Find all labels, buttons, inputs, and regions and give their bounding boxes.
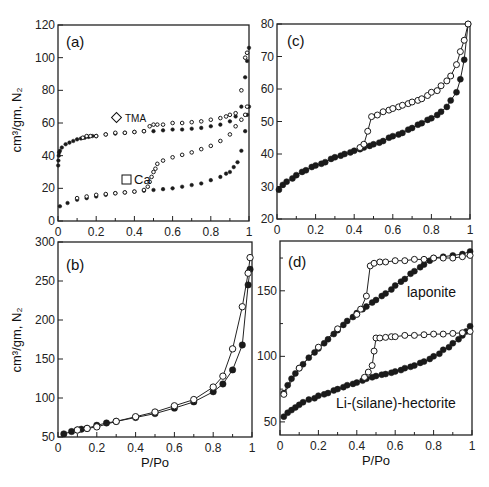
y-tick-label: 50 [42, 430, 56, 444]
y-axis-label-top: cm³/gm, N₂ [9, 88, 24, 153]
x-tick-label: 0 [55, 441, 62, 455]
series-tma-adsorption [56, 46, 250, 167]
series-desorption [74, 254, 253, 433]
series-adsorption [276, 21, 471, 193]
y-tick-label: 100 [257, 349, 277, 363]
y-tick-label: 40 [42, 149, 56, 163]
x-tick-label: 0.8 [205, 441, 222, 455]
y-tick-label: 50 [261, 115, 275, 129]
x-tick-label: 0.4 [346, 223, 363, 237]
y-tick-label: 150 [257, 284, 277, 298]
y-tick-label: 100 [35, 391, 55, 405]
y-tick-label: 250 [35, 274, 55, 288]
x-tick-label: 1 [469, 439, 476, 453]
ca-label: Ca [134, 172, 151, 187]
x-tick-label: 0.6 [387, 439, 404, 453]
x-axis-label-d: P/Po [362, 453, 390, 468]
y-tick-label: 120 [35, 18, 55, 32]
square-marker-icon [122, 175, 131, 184]
x-tick-label: 0 [277, 439, 284, 453]
x-tick-label: 0 [55, 225, 62, 239]
series-li-silane-hectorite-desorption [361, 328, 473, 380]
series-ca-adsorption [58, 105, 251, 208]
y-tick-label: 60 [261, 82, 275, 96]
y-tick-label: 200 [35, 313, 55, 327]
hectorite-label: Li-(silane)-hectorite [336, 395, 456, 411]
series-desorption [357, 21, 471, 151]
y-tick-label: 30 [261, 180, 275, 194]
x-tick-label: 0.4 [127, 441, 144, 455]
x-tick-label: 0.6 [164, 225, 181, 239]
y-tick-label: 20 [261, 212, 275, 226]
x-tick-label: 0.4 [348, 439, 365, 453]
x-tick-label: 0.8 [202, 225, 219, 239]
laponite-label: laponite [407, 284, 456, 300]
series-tma-desorption [81, 51, 249, 140]
plot-frame [58, 242, 252, 437]
y-tick-label: 0 [48, 214, 55, 228]
x-tick-label: 1 [249, 441, 256, 455]
x-tick-label: 0.6 [166, 441, 183, 455]
panel-c-label: (c) [287, 32, 305, 49]
panel-a-label: (a) [66, 33, 84, 50]
figure: 00.20.40.60.81020406080100120 00.20.40.6… [0, 0, 489, 487]
x-tick-label: 0.4 [126, 225, 143, 239]
x-tick-label: 0.2 [88, 225, 105, 239]
y-tick-label: 80 [261, 17, 275, 31]
y-tick-label: 70 [261, 50, 275, 64]
x-tick-label: 0.8 [425, 439, 442, 453]
y-axis-label-bottom: cm³/gm, N₂ [9, 308, 24, 373]
x-tick-label: 0.8 [423, 223, 440, 237]
panel-c-chart: 00.20.40.60.8120304050607080 [261, 17, 474, 237]
y-tick-label: 20 [42, 181, 56, 195]
x-tick-label: 0.6 [384, 223, 401, 237]
y-tick-label: 50 [264, 415, 278, 429]
x-tick-label: 1 [467, 223, 474, 237]
panel-b-label: (b) [66, 256, 84, 273]
panel-d-chart: 00.20.40.60.8150100150 [257, 241, 476, 453]
x-tick-label: 0.2 [310, 439, 327, 453]
y-tick-label: 60 [42, 116, 56, 130]
plot-frame [277, 24, 470, 219]
panel-d-label: (d) [288, 253, 306, 270]
series-ca-desorption [75, 105, 249, 200]
x-tick-label: 0.2 [307, 223, 324, 237]
x-tick-label: 0 [274, 223, 281, 237]
y-tick-label: 100 [35, 51, 55, 65]
x-tick-label: 1 [246, 225, 253, 239]
tma-legend: TMA [112, 113, 147, 124]
ca-legend: Ca [122, 172, 151, 187]
tma-label: TMA [125, 113, 146, 124]
diamond-marker-icon [112, 113, 122, 123]
y-tick-label: 40 [261, 147, 275, 161]
y-tick-label: 150 [35, 352, 55, 366]
x-axis-label-b: P/Po [141, 455, 169, 470]
y-tick-label: 300 [35, 235, 55, 249]
y-tick-label: 80 [42, 83, 56, 97]
x-tick-label: 0.2 [88, 441, 105, 455]
panel-a-chart: 00.20.40.60.81020406080100120 [35, 18, 253, 239]
